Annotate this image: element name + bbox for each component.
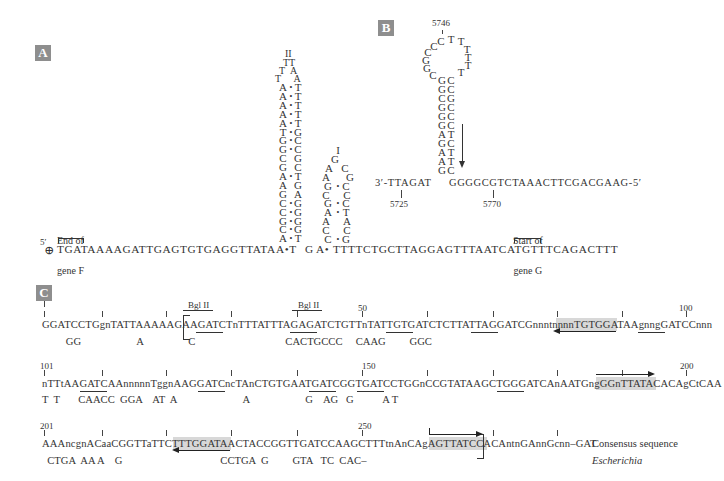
arrow-right-row2 xyxy=(596,374,650,375)
position-tick xyxy=(297,430,298,436)
tick-5725 xyxy=(401,190,402,198)
position-tick xyxy=(297,311,298,317)
position-tick xyxy=(686,311,687,317)
baseline-pair-a-t: A•T xyxy=(276,243,297,255)
row2-mid-num: 150 xyxy=(362,361,376,371)
position-tick xyxy=(166,430,167,436)
position-tick xyxy=(557,311,558,317)
position-tick xyxy=(166,311,167,317)
gatc-underline xyxy=(309,391,336,392)
baseline-g: G xyxy=(305,243,314,255)
row1-start-tick xyxy=(44,301,45,307)
panel-c-label: C xyxy=(36,285,52,301)
gatc-underline xyxy=(357,391,384,392)
row3-consensus: AAAncgnACaaCGGTTaTTCTTTGGATAACTACCGGTTGA… xyxy=(42,438,597,449)
position-5725: 5725 xyxy=(390,199,408,209)
arrowhead-left-row1 xyxy=(553,328,560,334)
gatc-underline xyxy=(198,391,225,392)
position-tick xyxy=(622,311,623,317)
b-loop: C xyxy=(436,36,446,47)
position-tick xyxy=(557,370,558,376)
arrowhead-right-row3 xyxy=(476,431,483,437)
position-tick xyxy=(231,370,232,376)
down-arrow-line xyxy=(462,124,463,164)
b-strand-right: GGGGCGTCTAAACTTCGACGAAG-5′ xyxy=(449,177,642,188)
baseline-pair-a-t2: A• xyxy=(316,243,329,255)
arrowhead-right-row2 xyxy=(648,371,655,377)
position-tick xyxy=(362,430,363,436)
row1-escherichia: GG A C CACTGCCC CAAG GGC xyxy=(42,336,432,347)
row3-start-num: 201 xyxy=(40,421,54,431)
gatc-underline xyxy=(80,391,107,392)
b-stem-nt: C xyxy=(446,165,456,176)
position-tick xyxy=(362,311,363,317)
position-tick xyxy=(44,311,45,317)
end-of-gene-f-line2: gene F xyxy=(57,266,84,276)
position-tick xyxy=(493,370,494,376)
bgl2-label-1: Bgl II xyxy=(188,300,209,310)
row3-mid-num: 250 xyxy=(358,421,372,431)
panel-a-label: A xyxy=(35,45,51,61)
position-tick xyxy=(102,370,103,376)
position-tick xyxy=(493,311,494,317)
baseline-left: TGATAAAAGATTGAGTGTGAGGTTATA xyxy=(57,243,276,255)
b-loop: T xyxy=(456,67,466,78)
position-tick xyxy=(297,370,298,376)
gatc-underline xyxy=(497,391,524,392)
b-strand-left: 3′-TTAGAT xyxy=(375,177,431,188)
position-tick xyxy=(44,430,45,436)
position-tick xyxy=(557,430,558,436)
position-5770: 5770 xyxy=(483,199,501,209)
legend-escherichia: Escherichia xyxy=(592,455,642,466)
position-tick xyxy=(231,430,232,436)
gatc-underline xyxy=(386,332,413,333)
row2-consensus: nTTtAAGATCAAnnnnnTggnAAGGATCncTAnCTGTGAA… xyxy=(42,378,722,389)
down-arrow-head xyxy=(459,161,465,168)
gatc-underline xyxy=(638,332,665,333)
position-tick xyxy=(362,370,363,376)
gatc-underline xyxy=(290,332,317,333)
position-tick xyxy=(231,311,232,317)
arrow-right-row3 xyxy=(430,434,478,435)
b-loop: T xyxy=(446,34,456,45)
row2-escherichia: T T CAACC GGA AT A A G AG G A T xyxy=(42,394,398,405)
position-tick xyxy=(686,370,687,376)
arrow-left-row1 xyxy=(558,331,616,332)
tick-5770 xyxy=(493,190,494,198)
tick-5746 xyxy=(442,30,443,34)
circled-plus-icon: ⊕ xyxy=(44,243,54,258)
row1-consensus: GGATCCTGgnTATTAAAAAGAAGATCTnTTTATTTAGAGA… xyxy=(42,319,712,330)
row2-start-num: 101 xyxy=(40,361,54,371)
arrow-right-row3-stub xyxy=(429,428,430,435)
bgl2-overline-1 xyxy=(183,310,213,311)
row1-bracket xyxy=(183,315,190,340)
legend-consensus: Consensus sequence xyxy=(592,438,678,449)
gatc-underline xyxy=(196,332,223,333)
position-tick xyxy=(166,370,167,376)
panel-b-label: B xyxy=(378,20,394,36)
start-of-gene-g-line2: gene G xyxy=(513,266,543,276)
baseline-right: TTTTCTGCTTAGGAGTTTAATCATGTTTCAGACTTT xyxy=(333,243,618,255)
position-tick xyxy=(102,430,103,436)
row3-bracket xyxy=(477,434,484,459)
arrow-left-row3 xyxy=(177,450,230,451)
bgl2-label-2: Bgl II xyxy=(298,300,319,310)
position-tick xyxy=(493,430,494,436)
position-tick xyxy=(44,370,45,376)
gatc-underline xyxy=(471,332,498,333)
position-5746: 5746 xyxy=(432,18,450,28)
row3-escherichia: CTGA AA A G CCTGA G GTA TC CAC– xyxy=(42,455,366,466)
position-tick xyxy=(427,370,428,376)
arrowhead-left-row3 xyxy=(172,447,179,453)
position-tick xyxy=(102,311,103,317)
position-tick xyxy=(427,311,428,317)
